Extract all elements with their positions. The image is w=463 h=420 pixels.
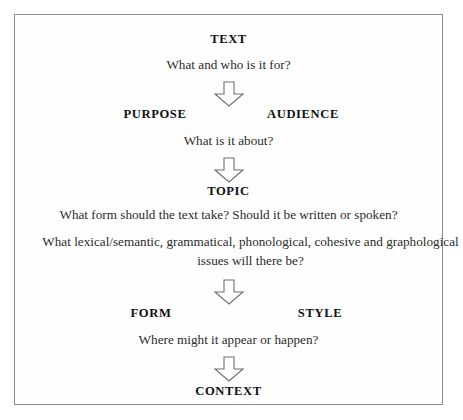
question-lexical-semantic-issues: What lexical/semantic, grammatical, phon…	[15, 233, 463, 270]
node-context: CONTEXT	[15, 383, 442, 399]
node-purpose: PURPOSE	[95, 107, 215, 122]
down-arrow-icon	[212, 157, 246, 183]
node-audience: AUDIENCE	[243, 107, 363, 122]
node-style: STYLE	[260, 306, 380, 321]
question-what-form-should-the-text-take: What form should the text take? Should i…	[15, 207, 442, 224]
flow-container: TEXT What and who is it for? PURPOSE AUD…	[15, 15, 442, 404]
node-form: FORM	[91, 306, 211, 321]
node-text: TEXT	[15, 31, 442, 47]
question-what-and-who-is-it-for: What and who is it for?	[15, 57, 442, 74]
down-arrow-icon	[212, 279, 246, 305]
node-topic: TOPIC	[15, 183, 442, 199]
down-arrow-icon	[212, 81, 246, 107]
question-what-is-it-about: What is it about?	[15, 133, 442, 150]
down-arrow-icon	[212, 356, 246, 382]
diagram-frame: TEXT What and who is it for? PURPOSE AUD…	[14, 14, 443, 405]
question-where-might-it-appear-or-happen: Where might it appear or happen?	[15, 332, 442, 349]
